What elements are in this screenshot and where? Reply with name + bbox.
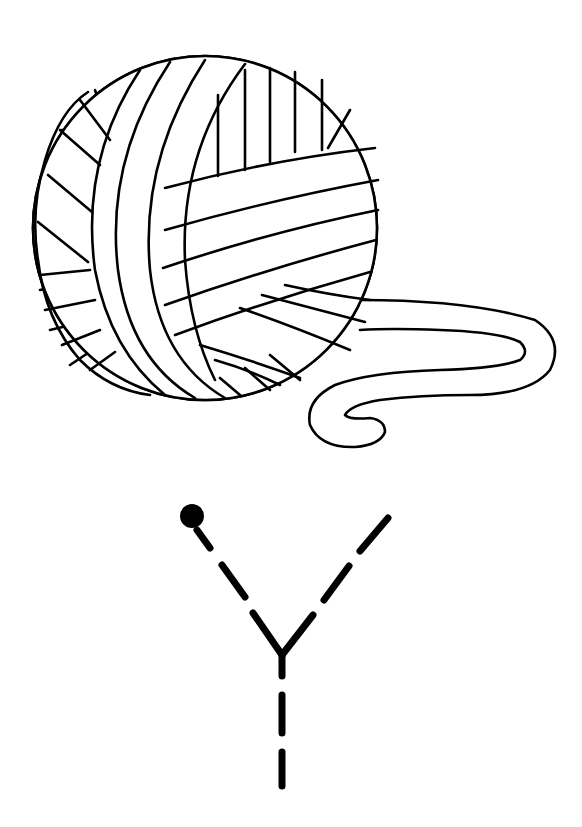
start-dot-icon xyxy=(180,504,204,528)
letter-y-tracing-guide xyxy=(197,518,388,786)
tracing-worksheet: ball of yarn Y xyxy=(0,0,582,827)
yarn-ball-illustration xyxy=(0,0,582,827)
